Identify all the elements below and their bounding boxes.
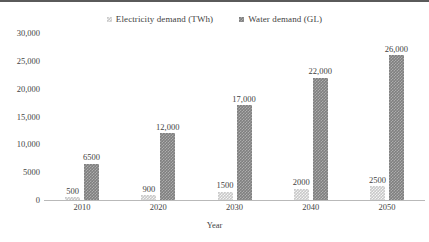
bar-water-2030[interactable]: 17,000 bbox=[237, 105, 252, 200]
x-axis-tick-label: 2010 bbox=[44, 203, 120, 212]
x-axis-tick-label: 2030 bbox=[196, 203, 272, 212]
bar-slot-water-2040: 22,000 bbox=[313, 33, 328, 200]
y-axis-tick-label: 5000 bbox=[0, 168, 40, 177]
bar-group-2030: 1500 17,000 bbox=[196, 33, 272, 200]
y-axis-tick-label: 20,000 bbox=[0, 84, 40, 93]
bar-slot-water-2030: 17,000 bbox=[237, 33, 252, 200]
plot-area: 500 6500 900 12,000 bbox=[44, 33, 425, 200]
bar-value-label: 26,000 bbox=[385, 45, 408, 54]
y-axis-tick-label: 10,000 bbox=[0, 140, 40, 149]
legend-label-electricity: Electricity demand (TWh) bbox=[116, 15, 213, 24]
bar-slot-electricity-2020: 900 bbox=[141, 33, 156, 200]
x-axis-tick-label: 2050 bbox=[349, 203, 425, 212]
bar-chart-figure: Electricity demand (TWh) Water demand (G… bbox=[0, 0, 429, 242]
bar-value-label: 1500 bbox=[217, 181, 234, 190]
legend-item-water-demand[interactable]: Water demand (GL) bbox=[239, 15, 322, 24]
x-axis-title: Year bbox=[0, 221, 429, 230]
bar-water-2020[interactable]: 12,000 bbox=[160, 133, 175, 200]
bar-value-label: 900 bbox=[142, 185, 155, 194]
legend-swatch-icon-water bbox=[239, 17, 244, 22]
bar-group-2050: 2500 26,000 bbox=[349, 33, 425, 200]
x-axis-tick-label: 2020 bbox=[120, 203, 196, 212]
chart-legend: Electricity demand (TWh) Water demand (G… bbox=[0, 15, 429, 24]
bar-value-label: 12,000 bbox=[156, 123, 179, 132]
bar-value-label: 17,000 bbox=[232, 95, 255, 104]
bar-group-2040: 2000 22,000 bbox=[273, 33, 349, 200]
legend-item-electricity-demand[interactable]: Electricity demand (TWh) bbox=[107, 15, 213, 24]
bar-value-label: 22,000 bbox=[309, 67, 332, 76]
figure-top-rule bbox=[0, 0, 429, 2]
bar-slot-water-2050: 26,000 bbox=[389, 33, 404, 200]
bar-water-2040[interactable]: 22,000 bbox=[313, 78, 328, 200]
bar-slot-electricity-2010: 500 bbox=[65, 33, 80, 200]
y-axis-tick-label: 0 bbox=[0, 196, 40, 205]
x-axis-tick-label: 2040 bbox=[273, 203, 349, 212]
bar-water-2010[interactable]: 6500 bbox=[84, 164, 99, 200]
bar-electricity-2030[interactable]: 1500 bbox=[218, 192, 233, 200]
y-axis: 30,000 25,000 20,000 15,000 10,000 5000 … bbox=[0, 33, 40, 200]
bar-water-2050[interactable]: 26,000 bbox=[389, 55, 404, 200]
legend-swatch-icon-electricity bbox=[107, 17, 112, 22]
bar-value-label: 6500 bbox=[83, 153, 100, 162]
bar-slot-water-2010: 6500 bbox=[84, 33, 99, 200]
bar-slot-electricity-2040: 2000 bbox=[294, 33, 309, 200]
bar-group-2010: 500 6500 bbox=[44, 33, 120, 200]
bar-value-label: 2000 bbox=[293, 178, 310, 187]
bar-value-label: 500 bbox=[66, 187, 79, 196]
x-axis-baseline bbox=[44, 200, 425, 201]
bar-value-label: 2500 bbox=[369, 176, 386, 185]
bar-slot-water-2020: 12,000 bbox=[160, 33, 175, 200]
legend-label-water: Water demand (GL) bbox=[248, 15, 322, 24]
x-axis: 2010 2020 2030 2040 2050 bbox=[44, 203, 425, 212]
y-axis-tick-label: 15,000 bbox=[0, 112, 40, 121]
bar-electricity-2050[interactable]: 2500 bbox=[370, 186, 385, 200]
y-axis-tick-label: 25,000 bbox=[0, 57, 40, 66]
bar-slot-electricity-2030: 1500 bbox=[218, 33, 233, 200]
y-axis-tick-label: 30,000 bbox=[0, 29, 40, 38]
bar-electricity-2040[interactable]: 2000 bbox=[294, 189, 309, 200]
bar-slot-electricity-2050: 2500 bbox=[370, 33, 385, 200]
bar-group-2020: 900 12,000 bbox=[120, 33, 196, 200]
